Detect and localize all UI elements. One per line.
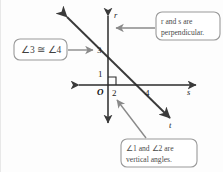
callout-bottom-line2: vertical angles. xyxy=(126,155,172,164)
callout-left[interactable]: ∠3 ≅ ∠4 xyxy=(14,39,93,60)
callout-bottom-line1: ∠1 and ∠2 are xyxy=(126,144,174,153)
tick-label-four: 4 xyxy=(145,88,150,98)
diagram-canvas: r s t O 3 1 2 4 ∠3 ≅ ∠4 r and s are perp… xyxy=(0,0,223,172)
axis-s-label: s xyxy=(187,87,191,97)
callout-left-text: ∠3 ≅ ∠4 xyxy=(21,45,62,55)
callout-top-right[interactable]: r and s are perpendicular. xyxy=(116,12,220,40)
right-angle-marker-path xyxy=(108,77,116,85)
callout-top-right-line2: perpendicular. xyxy=(161,28,204,37)
callout-top-right-line1: r and s are xyxy=(161,17,193,26)
line-t-label: t xyxy=(169,120,172,130)
geometry-figure: r s t O 3 1 2 4 ∠3 ≅ ∠4 r and s are perp… xyxy=(1,0,223,172)
callout-bottom[interactable]: ∠1 and ∠2 are vertical angles. xyxy=(117,100,197,167)
right-angle-square xyxy=(108,77,116,85)
axis-r-label: r xyxy=(114,10,118,20)
origin-label: O xyxy=(97,87,104,97)
callout-bottom-pointer xyxy=(117,100,146,138)
tick-label-one: 1 xyxy=(98,69,103,79)
tick-label-two: 2 xyxy=(112,88,117,98)
tick-label-three: 3 xyxy=(97,45,102,55)
